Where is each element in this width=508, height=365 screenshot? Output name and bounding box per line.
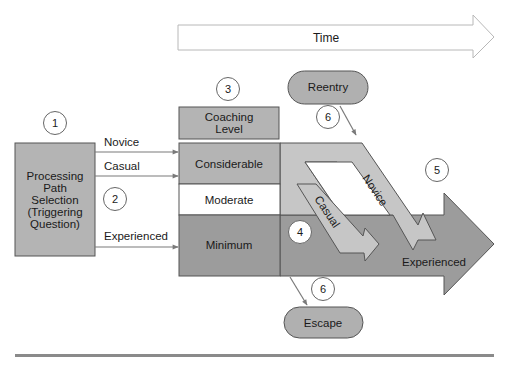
bottom-rule bbox=[15, 354, 494, 357]
escape-arrow bbox=[290, 277, 307, 305]
svg-text:4: 4 bbox=[297, 226, 303, 238]
marker-2: 2 bbox=[104, 188, 127, 211]
marker-1: 1 bbox=[44, 112, 67, 135]
coaching-levels: Considerable Moderate Minimum bbox=[179, 143, 280, 276]
svg-text:6: 6 bbox=[320, 283, 326, 295]
processing-path-selection-box: Processing Path Selection (Triggering Qu… bbox=[15, 143, 95, 256]
coaching-header-line-1: Coaching bbox=[205, 111, 254, 123]
casual-path-label: Casual bbox=[104, 160, 140, 172]
svg-text:2: 2 bbox=[112, 193, 118, 205]
svg-text:5: 5 bbox=[434, 164, 440, 176]
level-considerable-label: Considerable bbox=[195, 158, 263, 170]
level-minimum-label: Minimum bbox=[206, 239, 253, 251]
svg-text:6: 6 bbox=[325, 111, 331, 123]
marker-6-top: 6 bbox=[317, 106, 340, 129]
processing-line-4: (Triggering bbox=[27, 206, 82, 218]
escape-pill: Escape bbox=[284, 307, 363, 338]
novice-path-label: Novice bbox=[104, 136, 139, 148]
time-arrow: Time bbox=[178, 15, 494, 58]
escape-label: Escape bbox=[304, 317, 342, 329]
experienced-path-label: Experienced bbox=[104, 230, 168, 242]
processing-line-1: Processing bbox=[27, 170, 84, 182]
reentry-arrow bbox=[340, 106, 356, 135]
svg-text:1: 1 bbox=[52, 117, 58, 129]
processing-line-2: Path bbox=[43, 182, 67, 194]
coaching-header-line-2: Level bbox=[215, 123, 243, 135]
marker-3: 3 bbox=[217, 78, 240, 101]
processing-line-5: Question) bbox=[30, 218, 80, 230]
time-label: Time bbox=[313, 31, 340, 45]
marker-4: 4 bbox=[289, 221, 312, 244]
marker-5: 5 bbox=[426, 159, 449, 182]
processing-path-diagram: Time Processing Path Selection (Triggeri… bbox=[0, 0, 508, 365]
reentry-label: Reentry bbox=[308, 81, 349, 93]
svg-text:3: 3 bbox=[225, 83, 231, 95]
processing-line-3: Selection bbox=[31, 194, 78, 206]
level-moderate-label: Moderate bbox=[205, 194, 254, 206]
marker-6-bottom: 6 bbox=[312, 278, 335, 301]
reentry-pill: Reentry bbox=[288, 71, 368, 104]
experienced-flow-label: Experienced bbox=[402, 256, 466, 268]
coaching-level-header: Coaching Level bbox=[179, 107, 279, 139]
